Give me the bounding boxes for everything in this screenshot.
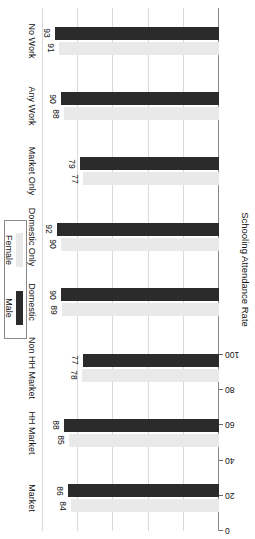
bar-value-label: 77	[71, 355, 81, 364]
bar-female	[64, 107, 219, 120]
bar-value-label: 79	[67, 159, 77, 168]
bar-male	[61, 92, 219, 105]
category-label: Any Work	[27, 87, 37, 126]
bar-value-label: 89	[50, 305, 60, 314]
category-label: No Work	[27, 23, 37, 58]
chart-figure: Schooling Attendance Rate 020406080100 8…	[0, 0, 255, 539]
category-label: HH Market	[27, 411, 37, 454]
bar-value-label: 90	[48, 240, 58, 249]
axis-tick-mark	[219, 354, 223, 355]
bar-value-label: 85	[57, 436, 67, 445]
value-axis-title-text: Schooling Attendance Rate	[241, 212, 252, 327]
bar-value-label: 78	[69, 370, 79, 379]
legend-entry[interactable]: Female	[3, 221, 26, 279]
bar-female	[59, 42, 219, 55]
bar-male	[68, 484, 219, 497]
bar-value-label: 93	[43, 28, 53, 37]
bar-male	[61, 288, 219, 301]
bar-group: 9193	[43, 8, 219, 73]
bar-female	[62, 303, 219, 316]
bar-male	[64, 419, 219, 432]
axis-tick-mark	[219, 460, 223, 461]
bar-female	[71, 499, 219, 512]
bar-value-label: 84	[58, 501, 68, 510]
bar-chart: Schooling Attendance Rate 020406080100 8…	[0, 0, 255, 539]
bar-value-label: 88	[51, 421, 61, 430]
bar-female	[82, 369, 219, 382]
axis-tick-label: 20	[225, 491, 234, 501]
legend-swatch-male	[16, 291, 23, 325]
bar-value-label: 90	[48, 290, 58, 299]
category-label: Non HH Market	[27, 337, 37, 399]
bar-value-label: 86	[55, 486, 65, 495]
chart-legend: MaleFemale	[4, 220, 27, 339]
legend-label-wrap: Female	[3, 221, 15, 279]
axis-tick-mark	[219, 389, 223, 390]
bar-value-label: 91	[46, 43, 56, 52]
value-axis-title: Schooling Attendance Rate	[239, 0, 253, 539]
axis-tick-label: 40	[225, 456, 234, 466]
bar-value-label: 88	[51, 109, 61, 118]
bar-group: 8990	[43, 270, 219, 335]
bar-group: 7877	[43, 335, 219, 400]
bar-value-label: 92	[44, 225, 54, 234]
bar-female	[61, 238, 219, 251]
bar-group: 8486	[43, 466, 219, 531]
bar-group: 8890	[43, 73, 219, 138]
legend-swatch-female	[16, 233, 23, 267]
bar-value-label: 77	[71, 174, 81, 183]
bar-male	[83, 354, 219, 367]
bar-female	[69, 434, 219, 447]
axis-tick-label: 80	[225, 385, 234, 395]
bar-group: 7779	[43, 139, 219, 204]
legend-label-wrap: Male	[3, 279, 15, 337]
legend-label: Male	[4, 298, 14, 318]
bar-group: 9092	[43, 204, 219, 269]
axis-tick-label: 60	[225, 420, 234, 430]
bar-male	[57, 223, 219, 236]
plot-area: 84868588787789909092777988909193	[43, 8, 219, 531]
legend-entry[interactable]: Male	[3, 279, 26, 337]
category-label: Domestic	[27, 283, 37, 321]
bar-male	[80, 157, 219, 170]
axis-tick-label: 100	[225, 350, 239, 360]
bar-male	[55, 27, 219, 40]
legend-label: Female	[4, 235, 14, 265]
bar-value-label: 90	[48, 94, 58, 103]
bar-group: 8588	[43, 400, 219, 465]
axis-tick-mark	[219, 495, 223, 496]
category-label: Domestic Only	[27, 208, 37, 267]
category-label: Market Only	[27, 147, 37, 196]
axis-tick-mark	[219, 530, 223, 531]
axis-tick-mark	[219, 424, 223, 425]
axis-tick-label: 0	[225, 526, 230, 536]
axis-tick-labels: 020406080100	[223, 0, 241, 539]
category-label: Market	[27, 485, 37, 513]
bar-female	[83, 172, 219, 185]
